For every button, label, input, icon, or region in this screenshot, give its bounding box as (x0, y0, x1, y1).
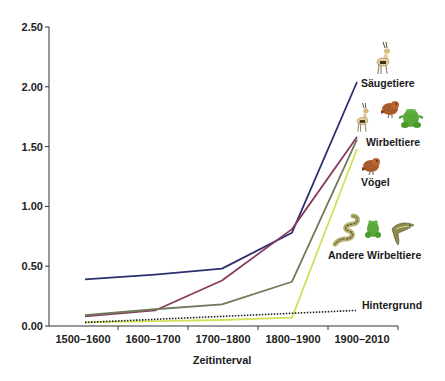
x-tick-label: 1900–2010 (334, 333, 389, 345)
fish-icon (392, 223, 414, 245)
bird-icon (381, 101, 399, 118)
series-line-vögel (85, 139, 357, 315)
gazelle-icon (357, 103, 369, 132)
label-saeugetiere: Säugetiere (361, 77, 415, 89)
label-hintergrund: Hintergrund (362, 299, 422, 311)
y-axis: 0.000.501.001.502.002.50 (22, 21, 49, 332)
label-voegel: Vögel (361, 176, 390, 188)
x-axis-title: Zeitinterval (193, 354, 252, 366)
x-tick-label: 1600–1700 (125, 333, 180, 345)
label-wirbeltiere: Wirbeltiere (366, 136, 420, 148)
y-tick-label: 2.50 (22, 21, 43, 33)
frog-icon (399, 109, 423, 128)
y-tick-label: 1.50 (22, 141, 43, 153)
y-tick-label: 0.50 (22, 260, 43, 272)
label-andere-wirbeltiere: Andere Wirbeltiere (328, 249, 421, 261)
x-tick-label: 1500–1600 (55, 333, 110, 345)
snake-icon (335, 216, 358, 244)
x-tick-label: 1700–1800 (195, 333, 250, 345)
frog-icon (365, 220, 381, 238)
bird-icon (362, 158, 380, 175)
x-tick-label: 1800–1900 (265, 333, 320, 345)
series-line-säugetiere (85, 82, 357, 279)
y-tick-label: 2.00 (22, 81, 43, 93)
series-group (85, 82, 357, 322)
line-chart: 0.000.501.001.502.002.50 1500–16001600–1… (0, 0, 445, 381)
y-tick-label: 1.00 (22, 200, 43, 212)
gazelle-icon (377, 42, 390, 74)
y-tick-label: 0.00 (22, 320, 43, 332)
x-axis: 1500–16001600–17001700–18001800–19001900… (49, 326, 398, 345)
